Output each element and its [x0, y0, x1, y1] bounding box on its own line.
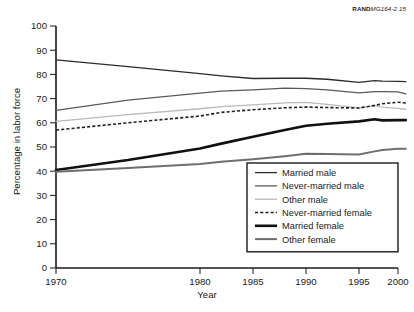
legend-label-never-married-female: Never-married female — [282, 208, 372, 218]
legend-label-other-male: Other male — [282, 195, 328, 205]
legend-label-never-married-male: Never-married male — [282, 181, 364, 191]
y-tick-label: 40 — [36, 166, 47, 177]
legend-label-married-male: Married male — [282, 168, 336, 178]
x-tick-label: 1990 — [295, 276, 316, 287]
y-tick-label: 80 — [36, 69, 47, 80]
y-tick-label: 30 — [36, 190, 47, 201]
y-tick-label: 100 — [31, 20, 47, 31]
figure: RANDMG164-2.15 Percentage in labor force… — [0, 0, 414, 312]
x-tick-label: 1995 — [348, 276, 369, 287]
line-chart-plot: 0102030405060708090100197019801985199019… — [0, 0, 414, 312]
y-tick-label: 0 — [42, 262, 47, 273]
legend-label-married-female: Married female — [282, 221, 344, 231]
y-tick-label: 10 — [36, 238, 47, 249]
series-line-other-male — [56, 102, 406, 121]
x-tick-label: 1970 — [45, 276, 66, 287]
y-tick-label: 70 — [36, 93, 47, 104]
series-line-married-male — [56, 60, 406, 83]
x-tick-label: 1985 — [242, 276, 263, 287]
x-tick-label: 1980 — [189, 276, 210, 287]
series-layer — [56, 60, 406, 172]
y-tick-label: 50 — [36, 141, 47, 152]
y-tick-label: 20 — [36, 214, 47, 225]
legend-layer: Married maleNever-married maleOther male… — [247, 163, 398, 252]
y-tick-label: 90 — [36, 45, 47, 56]
x-tick-label: 2000 — [387, 276, 408, 287]
legend-label-other-female: Other female — [282, 235, 336, 245]
y-tick-label: 60 — [36, 117, 47, 128]
